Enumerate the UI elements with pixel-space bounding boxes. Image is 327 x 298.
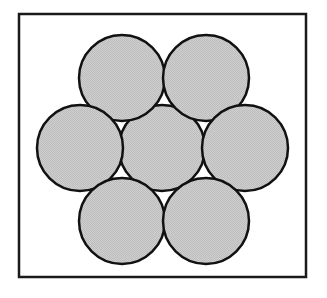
packing-diagram	[0, 0, 327, 298]
circle-bottom-right	[163, 178, 249, 264]
circle-bottom-left	[79, 178, 165, 264]
circle-middle-left	[37, 105, 123, 191]
figure-container	[0, 0, 327, 298]
